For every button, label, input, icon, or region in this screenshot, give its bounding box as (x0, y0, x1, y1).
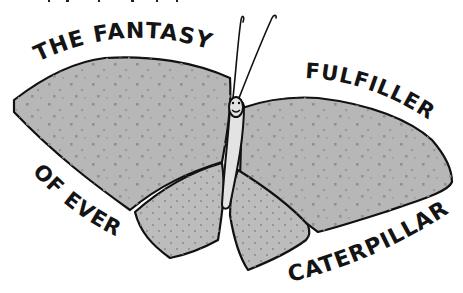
butterfly-head (229, 97, 243, 117)
cropped-top-marks (48, 0, 178, 2)
antennae (233, 15, 276, 98)
butterfly-illustration: THE FANTASY FULFILLER OF EVERY CATERPILL… (0, 0, 463, 293)
